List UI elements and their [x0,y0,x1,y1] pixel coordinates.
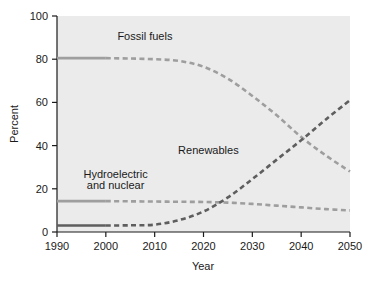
y-tick-label-100: 100 [30,10,48,22]
x-tick-label-2050: 2050 [338,240,362,252]
x-tick-label-2000: 2000 [94,240,118,252]
x-axis-title: Year [192,260,215,272]
x-tick-label-2030: 2030 [240,240,264,252]
energy-mix-line-chart: 020406080100 199020002010202020302040205… [0,0,374,287]
plot-background [57,16,350,232]
x-tick-label-2010: 2010 [142,240,166,252]
series-label-renewables: Renewables [178,144,239,156]
y-axis-title: Percent [8,105,20,143]
y-tick-label-40: 40 [36,140,48,152]
x-tick-label-1990: 1990 [45,240,69,252]
series-label-fossil-fuels: Fossil fuels [117,30,173,42]
y-tick-label-60: 60 [36,96,48,108]
series-label-and-nuclear: and nuclear [87,179,145,191]
chart-figure: 020406080100 199020002010202020302040205… [0,0,374,287]
y-tick-label-0: 0 [42,226,48,238]
y-tick-label-20: 20 [36,183,48,195]
x-tick-label-2040: 2040 [289,240,313,252]
y-tick-label-80: 80 [36,53,48,65]
x-tick-label-2020: 2020 [191,240,215,252]
